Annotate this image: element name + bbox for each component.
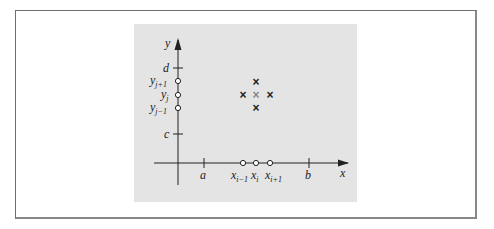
- y-node-j-minus-1: [175, 105, 180, 110]
- x-node-i-plus-1: [267, 160, 272, 165]
- y-node-j-plus-1: [175, 78, 180, 83]
- stencil-marker-north: ×: [252, 75, 259, 89]
- x-tick-label-b: b: [305, 168, 311, 182]
- y-tick-label-c: c: [164, 127, 170, 141]
- x-tick-label-a: a: [200, 168, 206, 182]
- x-node-i-minus-1: [240, 160, 245, 165]
- x-node-label-i-minus-1: xi−1: [230, 168, 248, 184]
- finite-difference-grid-diagram: x y a b d c xi−1 xi xi+1 yj+1 yj yj−1 × …: [0, 0, 494, 229]
- x-node-label-i-plus-1: xi+1: [264, 168, 282, 184]
- stencil-marker-center: ×: [252, 88, 259, 102]
- stencil-marker-west: ×: [239, 88, 246, 102]
- stencil-marker-south: ×: [252, 101, 259, 115]
- x-axis-label: x: [339, 166, 346, 180]
- y-node-label-j: yj: [160, 87, 169, 103]
- y-axis-label: y: [164, 36, 171, 50]
- x-node-i: [253, 160, 258, 165]
- y-node-label-j-minus-1: yj−1: [149, 100, 167, 116]
- y-node-j: [175, 92, 180, 97]
- y-tick-label-d: d: [163, 61, 170, 75]
- stencil-marker-east: ×: [266, 88, 273, 102]
- y-axis-arrow-icon: [175, 38, 182, 50]
- x-node-label-i: xi: [250, 168, 259, 184]
